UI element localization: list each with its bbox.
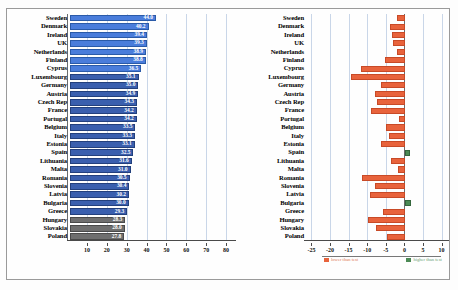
left-category-label: Luxembourg [7, 74, 70, 81]
left-bar-track: 35.0 [70, 81, 236, 89]
left-tick-mark [186, 243, 187, 246]
right-category-label: Poland [236, 233, 307, 240]
left-bar-track: 39.4 [70, 31, 236, 39]
right-bar-track [307, 31, 449, 39]
right-bar-negative [383, 209, 406, 215]
left-bar-row: Luxembourg35.1 [7, 73, 236, 81]
left-category-label: Sweden [7, 15, 70, 22]
right-bar-negative [376, 225, 405, 231]
right-category-label: Hungary [236, 217, 307, 224]
left-bar: 33.1 [70, 141, 135, 148]
left-bar-row: Estonia33.1 [7, 140, 236, 148]
right-category-label: Greece [236, 208, 307, 215]
left-category-label: Bulgaria [7, 200, 70, 207]
left-category-label: Slovenia [7, 183, 70, 190]
right-category-label: UK [236, 40, 307, 47]
left-bar-row: Hungary28.3 [7, 216, 236, 224]
screenshot-root: Sweden44.0Denmark40.2Ireland39.4UK39.3Ne… [0, 0, 458, 290]
right-bar-row: Slovakia [236, 224, 449, 232]
right-bar-negative [375, 91, 405, 97]
right-bar-track [307, 14, 449, 22]
left-bar: 40.2 [70, 23, 149, 30]
right-bar-negative [398, 166, 405, 172]
right-plot-area: SwedenDenmarkIrelandUKNetherlandsFinland… [236, 9, 449, 279]
legend-swatch-positive [406, 258, 411, 262]
left-bar-value-label: 39.3 [134, 41, 143, 46]
left-bar: 33.5 [70, 124, 135, 131]
right-bar-track [307, 22, 449, 30]
right-category-label: Italy [236, 133, 307, 140]
right-bar-rows: SwedenDenmarkIrelandUKNetherlandsFinland… [236, 14, 449, 241]
left-bar: 34.9 [70, 91, 138, 98]
legend-label-positive: higher than test [413, 258, 441, 263]
right-bar-negative [393, 40, 405, 46]
left-bar-value-label: 32.5 [121, 150, 130, 155]
left-bar-row: Romania30.5 [7, 174, 236, 182]
left-bar: 29.3 [70, 208, 127, 215]
right-bar-negative [397, 49, 405, 55]
right-tick-label: -5 [383, 247, 388, 253]
right-bar-row: Finland [236, 56, 449, 64]
right-category-label: Ireland [236, 32, 307, 39]
right-bar-row: Italy [236, 132, 449, 140]
right-bar-negative [375, 183, 406, 189]
left-bar-row: Italy33.3 [7, 132, 236, 140]
right-bar-negative [368, 217, 405, 223]
left-category-label: Malta [7, 166, 70, 173]
right-bar-negative [377, 99, 405, 105]
left-bar: 34.2 [70, 116, 137, 123]
right-tick-mark [423, 243, 424, 246]
right-bar-track [307, 48, 449, 56]
left-bar-value-label: 31.0 [118, 167, 127, 172]
left-category-label: Romania [7, 175, 70, 182]
right-tick-mark [349, 243, 350, 246]
left-bar-row: Slovakia28.0 [7, 224, 236, 232]
right-category-label: Sweden [236, 15, 307, 22]
left-bar: 35.1 [70, 74, 139, 81]
left-bar-value-label: 35.0 [126, 83, 135, 88]
right-bar-negative [381, 82, 405, 88]
right-category-label: Slovakia [236, 225, 307, 232]
left-category-label: Belgium [7, 124, 70, 131]
left-tick-mark [166, 243, 167, 246]
left-bar: 39.3 [70, 40, 147, 47]
left-category-label: Greece [7, 208, 70, 215]
right-bar-row: Czech Rep [236, 98, 449, 106]
right-bar-track [307, 56, 449, 64]
right-category-label: Estonia [236, 141, 307, 148]
left-category-label: Ireland [7, 32, 70, 39]
left-tick-label: 30 [124, 247, 130, 253]
left-category-label: Spain [7, 149, 70, 156]
right-legend: lower than testhigher than test [236, 255, 449, 267]
right-category-label: Latvia [236, 191, 307, 198]
left-category-label: Italy [7, 133, 70, 140]
right-bar-track [307, 216, 449, 224]
left-bar-value-label: 30.5 [117, 175, 126, 180]
left-category-label: Netherlands [7, 49, 70, 56]
right-bar-negative [381, 141, 406, 147]
left-bar-row: Cyprus36.5 [7, 64, 236, 72]
right-tick-mark [330, 243, 331, 246]
left-bar-row: Slovenia30.4 [7, 182, 236, 190]
right-bar-row: Romania [236, 174, 449, 182]
left-bar: 34.3 [70, 99, 137, 106]
right-bar-row: Estonia [236, 140, 449, 148]
right-bar-row: Sweden [236, 14, 449, 22]
right-bar-row: Bulgaria [236, 199, 449, 207]
left-bar: 28.0 [70, 225, 125, 232]
left-bar-value-label: 33.1 [122, 142, 131, 147]
right-bar-row: Ireland [236, 31, 449, 39]
left-bar-track: 30.4 [70, 182, 236, 190]
right-category-label: Slovenia [236, 183, 307, 190]
left-tick-mark [127, 243, 128, 246]
left-tick-mark [107, 243, 108, 246]
left-bar-track: 29.3 [70, 207, 236, 215]
left-bar-value-label: 44.0 [143, 15, 152, 20]
right-category-label: Portugal [236, 116, 307, 123]
left-bar: 34.2 [70, 107, 137, 114]
right-bar-track [307, 106, 449, 114]
right-bar-negative [386, 124, 406, 130]
right-bar-row: Denmark [236, 22, 449, 30]
left-bar-rows: Sweden44.0Denmark40.2Ireland39.4UK39.3Ne… [7, 14, 236, 241]
left-tick-mark [206, 243, 207, 246]
